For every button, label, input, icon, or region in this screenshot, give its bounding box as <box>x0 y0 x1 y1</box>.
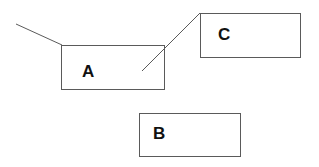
box-c <box>200 13 301 58</box>
box-a <box>61 45 165 90</box>
box-c-label: C <box>218 26 230 43</box>
diagram-canvas: A C B <box>0 0 319 167</box>
connector-line-to-a <box>16 24 62 45</box>
box-b-label: B <box>153 125 165 142</box>
box-a-label: A <box>82 63 94 80</box>
